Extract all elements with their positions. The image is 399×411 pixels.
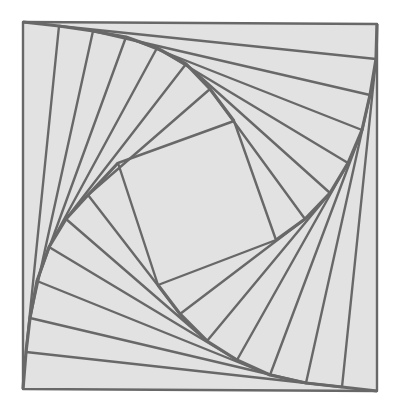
spiral-squares-diagram [0, 0, 399, 411]
